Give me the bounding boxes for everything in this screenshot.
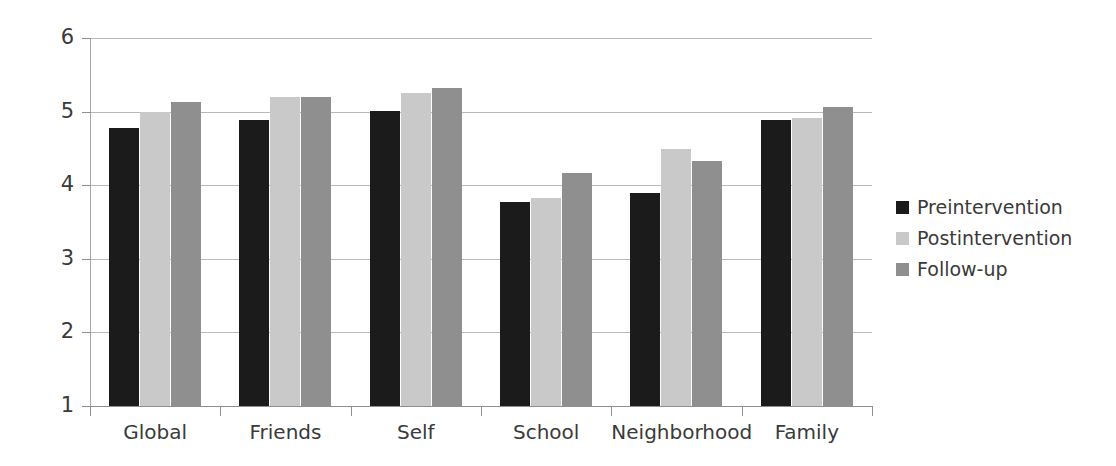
- y-axis-line: [90, 38, 91, 407]
- bar-family-follow-up: [823, 107, 853, 406]
- legend-swatch-preintervention-icon: [896, 201, 909, 214]
- y-tick-mark-2: [82, 332, 91, 333]
- bar-school-postintervention: [531, 198, 561, 406]
- y-tick-label-2: 2: [34, 321, 74, 342]
- bar-self-postintervention: [401, 93, 431, 406]
- category-label-school: School: [481, 421, 611, 443]
- category-label-family: Family: [742, 421, 872, 443]
- x-separator-tick-2: [351, 407, 352, 416]
- x-separator-tick-0: [90, 407, 91, 416]
- bar-global-postintervention: [140, 112, 170, 406]
- category-label-friends: Friends: [220, 421, 350, 443]
- legend-swatch-postintervention-icon: [896, 232, 909, 245]
- x-separator-tick-1: [220, 407, 221, 416]
- y-axis-tick-labels: 123456: [0, 0, 74, 466]
- bar-group-neighborhood: [611, 38, 741, 406]
- category-label-neighborhood: Neighborhood: [611, 421, 741, 443]
- legend-item-preintervention[interactable]: Preintervention: [896, 192, 1111, 223]
- bar-family-preintervention: [761, 120, 791, 406]
- y-tick-label-1: 1: [34, 395, 74, 416]
- bar-school-follow-up: [562, 173, 592, 406]
- x-separator-tick-5: [742, 407, 743, 416]
- bar-chart: 123456 GlobalFriendsSelfSchoolNeighborho…: [0, 0, 1116, 466]
- category-label-global: Global: [90, 421, 220, 443]
- y-tick-label-5: 5: [34, 101, 74, 122]
- chart-legend: PreinterventionPostinterventionFollow-up: [896, 192, 1111, 285]
- bar-neighborhood-follow-up: [692, 161, 722, 406]
- x-separator-tick-4: [611, 407, 612, 416]
- bar-family-postintervention: [792, 118, 822, 407]
- legend-label-postintervention: Postintervention: [917, 229, 1072, 248]
- bar-self-follow-up: [432, 88, 462, 406]
- legend-label-preintervention: Preintervention: [917, 198, 1063, 217]
- legend-item-postintervention[interactable]: Postintervention: [896, 223, 1111, 254]
- bar-friends-follow-up: [301, 97, 331, 406]
- y-tick-mark-5: [82, 112, 91, 113]
- category-label-self: Self: [351, 421, 481, 443]
- x-separator-tick-6: [872, 407, 873, 416]
- bar-global-preintervention: [109, 128, 139, 406]
- bar-global-follow-up: [171, 102, 201, 406]
- y-tick-label-4: 4: [34, 174, 74, 195]
- y-tick-label-6: 6: [34, 27, 74, 48]
- plot-area: [90, 38, 872, 406]
- legend-item-follow-up[interactable]: Follow-up: [896, 254, 1111, 285]
- bar-group-self: [351, 38, 481, 406]
- bar-neighborhood-postintervention: [661, 149, 691, 406]
- bar-group-family: [742, 38, 872, 406]
- legend-label-follow-up: Follow-up: [917, 260, 1008, 279]
- bar-self-preintervention: [370, 111, 400, 406]
- y-tick-mark-4: [82, 185, 91, 186]
- bar-school-preintervention: [500, 202, 530, 406]
- x-separator-tick-3: [481, 407, 482, 416]
- bar-group-friends: [220, 38, 350, 406]
- bar-friends-preintervention: [239, 120, 269, 406]
- bar-group-school: [481, 38, 611, 406]
- bar-neighborhood-preintervention: [630, 193, 660, 406]
- bar-friends-postintervention: [270, 97, 300, 406]
- y-tick-mark-6: [82, 38, 91, 39]
- legend-swatch-followup-icon: [896, 263, 909, 276]
- y-tick-label-3: 3: [34, 248, 74, 269]
- bar-group-global: [90, 38, 220, 406]
- y-tick-mark-3: [82, 259, 91, 260]
